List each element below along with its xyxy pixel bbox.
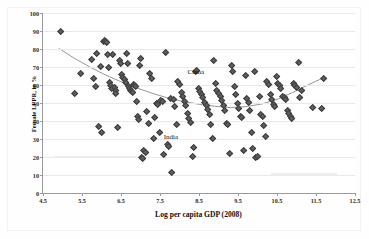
x-tick-label: 5.5 (78, 197, 86, 204)
x-tick-mark (121, 193, 122, 196)
y-tick-mark (40, 103, 43, 104)
y-tick-mark (40, 13, 43, 14)
gridline (43, 121, 355, 122)
x-tick-mark (277, 193, 278, 196)
x-tick-label: 7.5 (156, 197, 164, 204)
x-tick-mark (238, 193, 239, 196)
y-tick-label: 70 (33, 64, 39, 71)
gridline (43, 139, 355, 140)
x-tick-label: 12.5 (350, 197, 361, 204)
x-tick-label: 9.5 (234, 197, 242, 204)
x-tick-mark (355, 193, 356, 196)
y-tick-mark (40, 31, 43, 32)
gridline (43, 103, 355, 104)
x-tick-label: 11.5 (311, 197, 322, 204)
y-tick-mark (40, 175, 43, 176)
gridline (43, 31, 355, 32)
y-tick-mark (40, 121, 43, 122)
y-tick-label: 80 (33, 46, 39, 53)
y-tick-label: 30 (33, 136, 39, 143)
y-tick-label: 90 (33, 28, 39, 35)
x-tick-label: 6.5 (117, 197, 125, 204)
y-tick-mark (40, 157, 43, 158)
y-tick-mark (40, 49, 43, 50)
x-tick-mark (160, 193, 161, 196)
smudge-right (271, 173, 337, 175)
x-tick-label: 4.5 (39, 197, 47, 204)
annotation-india: India (164, 133, 178, 141)
x-tick-label: 10.5 (272, 197, 283, 204)
x-tick-mark (82, 193, 83, 196)
x-tick-mark (43, 193, 44, 196)
y-tick-label: 100 (30, 10, 39, 17)
y-axis-title-container: Female LFPR, in % (21, 13, 31, 194)
y-tick-mark (40, 139, 43, 140)
smudge-left (53, 156, 143, 158)
y-tick-label: 20 (33, 154, 39, 161)
y-tick-label: 0 (36, 190, 39, 197)
y-tick-label: 60 (33, 82, 39, 89)
chart-figure: Female LFPR, in % 0102030405060708090100… (0, 0, 369, 239)
y-tick-label: 50 (33, 100, 39, 107)
plot-area: 01020304050607080901004.55.56.57.58.59.5… (42, 13, 355, 194)
y-tick-label: 10 (33, 172, 39, 179)
annotation-china: China (188, 68, 205, 76)
y-tick-mark (40, 67, 43, 68)
x-tick-label: 8.5 (195, 197, 203, 204)
x-axis-title: Log per capita GDP (2008) (42, 210, 355, 219)
x-tick-mark (199, 193, 200, 196)
y-tick-mark (40, 85, 43, 86)
gridline (43, 49, 355, 50)
y-tick-label: 40 (33, 118, 39, 125)
x-tick-mark (316, 193, 317, 196)
gridline (43, 13, 355, 14)
